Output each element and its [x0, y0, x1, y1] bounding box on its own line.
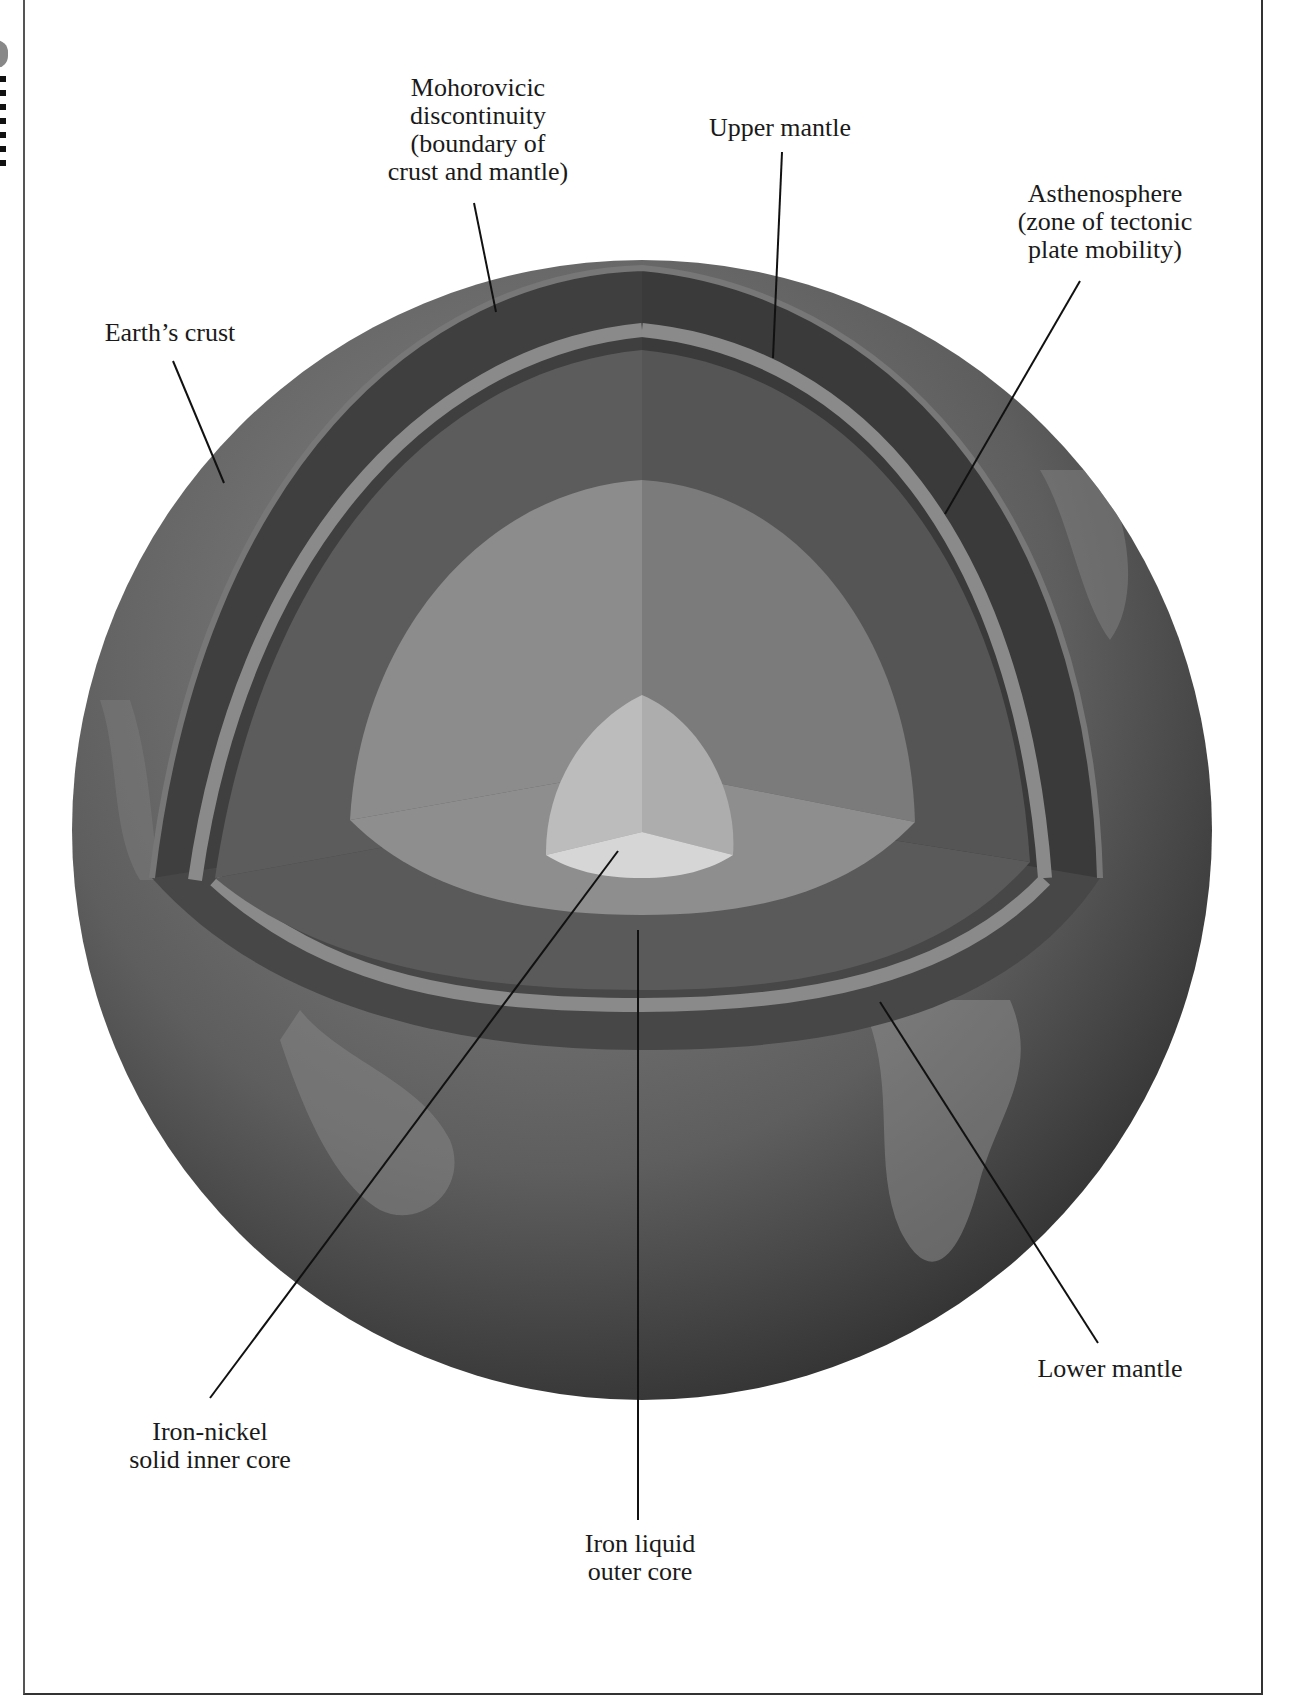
label-line: (boundary of [348, 130, 608, 158]
label-lower-mantle: Lower mantle [1010, 1355, 1210, 1383]
label-line: plate mobility) [985, 236, 1225, 264]
label-line: (zone of tectonic [985, 208, 1225, 236]
label-line: Iron-nickel [100, 1418, 320, 1446]
label-outer-core: Iron liquid outer core [540, 1530, 740, 1586]
label-line: Iron liquid [540, 1530, 740, 1558]
label-line: outer core [540, 1558, 740, 1586]
label-moho: Mohorovicic discontinuity (boundary of c… [348, 74, 608, 186]
label-line: Mohorovicic [348, 74, 608, 102]
label-asthenosphere: Asthenosphere (zone of tectonic plate mo… [985, 180, 1225, 264]
label-line: Asthenosphere [985, 180, 1225, 208]
label-line: Earth’s crust [80, 319, 260, 347]
label-line: Lower mantle [1010, 1355, 1210, 1383]
label-line: Upper mantle [680, 114, 880, 142]
label-crust: Earth’s crust [80, 319, 260, 347]
leader-crust [173, 361, 224, 483]
label-inner-core: Iron-nickel solid inner core [100, 1418, 320, 1474]
label-line: solid inner core [100, 1446, 320, 1474]
label-line: crust and mantle) [348, 158, 608, 186]
label-line: discontinuity [348, 102, 608, 130]
label-upper-mantle: Upper mantle [680, 114, 880, 142]
